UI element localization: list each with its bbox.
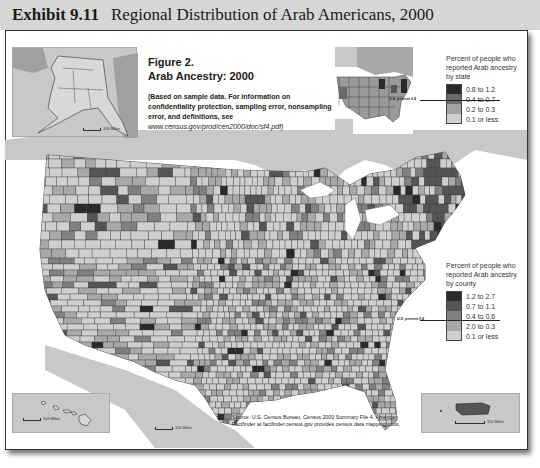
county — [182, 312, 198, 318]
county — [381, 276, 387, 282]
county — [368, 342, 375, 348]
county — [422, 300, 429, 306]
county — [262, 378, 268, 384]
legend-swatch — [446, 291, 462, 301]
county — [220, 186, 227, 195]
county — [412, 177, 419, 186]
county — [239, 186, 244, 195]
county — [117, 294, 133, 300]
county — [360, 330, 365, 336]
county — [142, 342, 154, 348]
county — [343, 312, 350, 318]
county — [362, 360, 368, 366]
county — [389, 264, 395, 270]
county — [233, 240, 238, 249]
county — [115, 240, 131, 249]
county — [271, 213, 276, 222]
county — [76, 186, 89, 195]
county — [431, 342, 438, 348]
county — [334, 249, 342, 258]
county — [195, 336, 203, 342]
county — [397, 396, 402, 402]
county — [337, 195, 344, 204]
county — [404, 213, 411, 222]
county — [53, 264, 64, 270]
county-us-average-label: U.S. percent 0.4 — [397, 317, 424, 321]
county — [214, 186, 221, 195]
county — [238, 372, 243, 378]
main-scale-bar: 100 Miles — [155, 425, 192, 430]
county — [366, 306, 372, 312]
county — [328, 231, 335, 240]
county — [140, 288, 158, 294]
county — [418, 186, 424, 195]
county — [223, 390, 229, 396]
county — [128, 186, 141, 195]
county — [311, 204, 319, 213]
county — [233, 282, 238, 288]
county — [441, 384, 448, 390]
county — [240, 177, 245, 186]
county — [270, 348, 277, 354]
county — [35, 306, 52, 312]
county — [140, 282, 157, 288]
county — [336, 270, 344, 276]
county — [319, 300, 326, 306]
county — [250, 288, 257, 294]
county — [251, 372, 259, 378]
county — [350, 276, 357, 282]
county — [399, 360, 405, 366]
county — [431, 336, 437, 342]
county — [330, 372, 336, 378]
county — [313, 258, 320, 264]
county — [35, 330, 52, 336]
county — [322, 372, 329, 378]
county — [387, 276, 395, 282]
county — [193, 213, 201, 222]
county — [204, 258, 212, 264]
county — [77, 312, 88, 318]
county — [217, 336, 224, 342]
county — [305, 342, 311, 348]
county — [174, 231, 186, 240]
county — [400, 282, 407, 288]
county — [226, 240, 233, 249]
county — [452, 342, 459, 348]
county — [273, 240, 279, 249]
county — [470, 366, 478, 372]
county — [190, 396, 198, 402]
county — [435, 186, 442, 195]
county — [71, 213, 88, 222]
county — [205, 294, 213, 300]
county — [448, 354, 454, 360]
county — [35, 372, 49, 378]
county — [407, 282, 415, 288]
county — [225, 231, 230, 240]
county — [194, 378, 202, 384]
county — [288, 324, 293, 330]
county — [392, 360, 399, 366]
county — [63, 264, 79, 270]
county — [365, 222, 370, 231]
county — [356, 384, 363, 390]
county — [182, 324, 196, 330]
county — [415, 300, 422, 306]
county — [51, 342, 68, 348]
county — [188, 222, 196, 231]
county — [312, 276, 318, 282]
county — [197, 270, 203, 276]
county — [48, 384, 61, 390]
county — [187, 294, 193, 300]
county — [350, 348, 358, 354]
county — [344, 177, 349, 186]
county — [474, 231, 480, 240]
county — [416, 384, 423, 390]
county — [284, 270, 291, 276]
county — [85, 159, 95, 168]
county — [338, 432, 344, 438]
census-url-link[interactable]: www.census.gov/prod/cen2000/doc/sf4.pdf) — [148, 123, 283, 130]
county — [218, 414, 224, 420]
county — [299, 390, 305, 396]
county — [337, 366, 344, 372]
county — [155, 366, 172, 372]
